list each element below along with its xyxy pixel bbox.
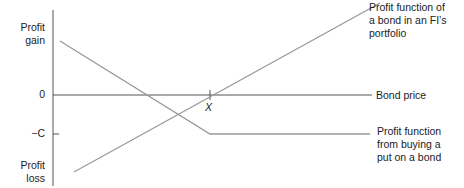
put-profit-line: [60, 41, 370, 134]
put-profit-label: Profit functionfrom buying aput on a bon…: [377, 125, 441, 164]
zero-label: 0: [0, 88, 45, 101]
profit-gain-label: Profitgain: [0, 21, 45, 47]
x-label: X: [205, 101, 212, 114]
profit-loss-label: Profitloss: [0, 159, 45, 185]
bond-profit-line: [74, 3, 380, 172]
bond-profit-label: Profit function ofa bond in an FI’sportf…: [369, 1, 446, 40]
bond-price-label: Bond price: [376, 89, 426, 102]
put-option-profit-diagram: Profitgain Profitloss 0 −C X Bond price …: [0, 0, 464, 188]
minus-c-label: −C: [0, 127, 45, 140]
